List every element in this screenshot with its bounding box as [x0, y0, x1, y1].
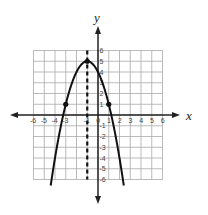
x-axis-label: x: [185, 108, 192, 123]
svg-text:-4: -4: [52, 117, 58, 124]
svg-text:1: 1: [100, 101, 104, 108]
svg-text:-5: -5: [41, 117, 47, 124]
svg-text:-3: -3: [100, 144, 106, 151]
svg-text:5: 5: [100, 58, 104, 65]
svg-text:3: 3: [128, 117, 132, 124]
svg-text:4: 4: [139, 117, 143, 124]
svg-text:-5: -5: [100, 165, 106, 172]
svg-text:6: 6: [161, 117, 165, 124]
svg-text:-6: -6: [100, 176, 106, 183]
y-axis-label: y: [92, 10, 100, 25]
axes: [10, 26, 180, 204]
svg-text:-1: -1: [100, 122, 106, 129]
svg-text:2: 2: [118, 117, 122, 124]
svg-text:2: 2: [100, 90, 104, 97]
svg-text:-6: -6: [30, 117, 36, 124]
svg-text:-4: -4: [100, 155, 106, 162]
svg-text:6: 6: [100, 47, 104, 54]
parabola-graph: -6-5-4-3-10123456654321-1-2-3-4-5-6 x y: [0, 0, 208, 215]
svg-text:1: 1: [107, 117, 111, 124]
svg-text:-2: -2: [100, 133, 106, 140]
svg-text:5: 5: [150, 117, 154, 124]
